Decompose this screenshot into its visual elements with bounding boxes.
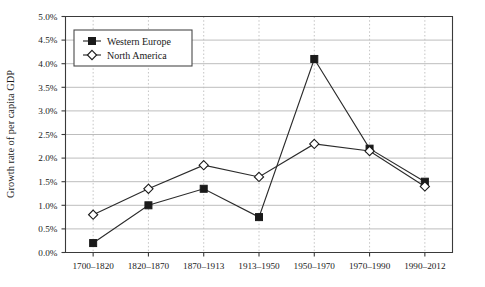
y-tick-label: 5.0% bbox=[38, 12, 57, 22]
data-point-western-europe bbox=[256, 214, 263, 221]
x-tick-label: 1820–1870 bbox=[128, 261, 170, 271]
y-tick-label: 4.0% bbox=[38, 59, 57, 69]
y-tick-label: 0.0% bbox=[38, 248, 57, 258]
chart-svg: 0.0%0.5%1.0%1.5%2.0%2.5%3.0%3.5%4.0%4.5%… bbox=[0, 0, 485, 287]
y-tick-label: 0.5% bbox=[38, 224, 57, 234]
y-tick-label: 2.0% bbox=[38, 153, 57, 163]
x-tick-label: 1913–1950 bbox=[238, 261, 280, 271]
y-tick-label: 1.0% bbox=[38, 201, 57, 211]
y-tick-label: 2.5% bbox=[38, 130, 57, 140]
y-tick-label: 4.5% bbox=[38, 35, 57, 45]
y-tick-label: 1.5% bbox=[38, 177, 57, 187]
y-tick-label: 3.0% bbox=[38, 106, 57, 116]
y-tick-label: 3.5% bbox=[38, 83, 57, 93]
x-tick-label: 1950–1970 bbox=[294, 261, 336, 271]
chart-legend: Western EuropeNorth America bbox=[74, 30, 192, 66]
legend-label: North America bbox=[107, 50, 167, 61]
data-point-western-europe bbox=[145, 202, 152, 209]
x-axis-tick-labels: 1700–18201820–18701870–19131913–19501950… bbox=[72, 261, 445, 271]
legend-marker-filled-square bbox=[89, 38, 96, 45]
data-point-western-europe bbox=[311, 55, 318, 62]
chart-background bbox=[0, 0, 485, 287]
data-point-western-europe bbox=[90, 240, 97, 247]
x-tick-label: 1700–1820 bbox=[72, 261, 114, 271]
data-point-western-europe bbox=[200, 185, 207, 192]
x-tick-label: 1870–1913 bbox=[183, 261, 225, 271]
legend-label: Western Europe bbox=[107, 36, 171, 47]
x-tick-label: 1970–1990 bbox=[349, 261, 391, 271]
growth-rate-line-chart: 0.0%0.5%1.0%1.5%2.0%2.5%3.0%3.5%4.0%4.5%… bbox=[0, 0, 485, 287]
x-tick-label: 1990–2012 bbox=[404, 261, 446, 271]
y-axis-title: Growth rate of per capita GDP bbox=[5, 70, 16, 198]
